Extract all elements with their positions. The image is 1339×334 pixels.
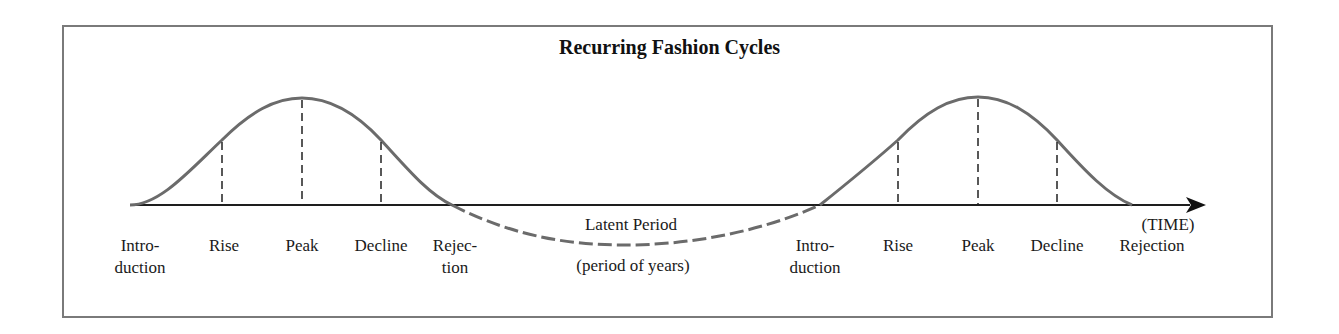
label-line1: Rise — [209, 235, 239, 257]
label-cycle1-rejection: Rejec- tion — [433, 235, 477, 279]
label-cycle1-peak: Peak — [285, 235, 318, 257]
label-line1: Peak — [961, 235, 994, 257]
label-cycle2-introduction: Intro- duction — [790, 235, 841, 279]
label-cycle1-decline: Decline — [355, 235, 408, 257]
label-line2: duction — [115, 257, 166, 279]
cycle2-curve — [820, 97, 1132, 205]
label-cycle2-decline: Decline — [1031, 235, 1084, 257]
fashion-cycle-diagram — [0, 0, 1339, 334]
label-line1: Peak — [285, 235, 318, 257]
label-cycle1-rise: Rise — [209, 235, 239, 257]
label-line1: Rise — [883, 235, 913, 257]
label-line2: tion — [433, 257, 477, 279]
label-cycle2-peak: Peak — [961, 235, 994, 257]
label-cycle2-rejection: Rejection — [1119, 235, 1184, 257]
label-line1: Rejec- — [433, 235, 477, 257]
label-cycle1-introduction: Intro- duction — [115, 235, 166, 279]
label-latent-period: Latent Period — [585, 214, 677, 236]
label-line1: Intro- — [115, 235, 166, 257]
label-cycle2-rise: Rise — [883, 235, 913, 257]
label-line1: Decline — [1031, 235, 1084, 257]
cycle1-curve — [130, 98, 452, 205]
label-line1: Decline — [355, 235, 408, 257]
label-period-of-years: (period of years) — [576, 255, 689, 277]
label-line2: duction — [790, 257, 841, 279]
label-line1: Intro- — [790, 235, 841, 257]
label-time-axis: (TIME) — [1142, 214, 1195, 236]
label-line1: Rejection — [1119, 235, 1184, 257]
